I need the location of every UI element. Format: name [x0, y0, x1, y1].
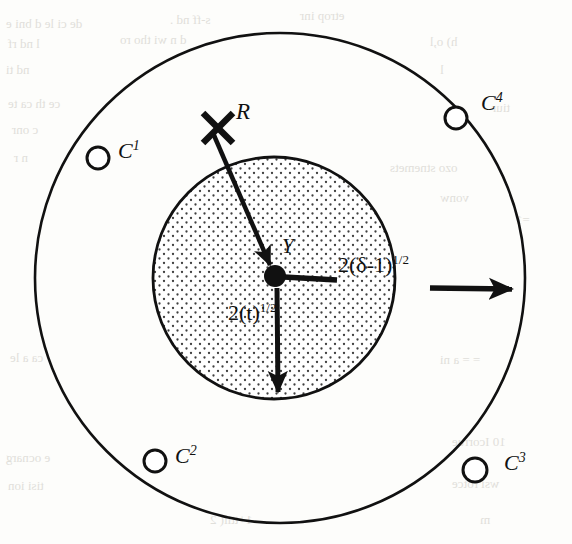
t-arrow-label: 2(t)1/2: [228, 302, 276, 324]
delta-arrow-label: 2(δ-1)1/2: [338, 254, 409, 276]
vertical-arrow-t: [277, 288, 278, 392]
x-mark: [203, 113, 233, 143]
radius-label-r: R: [236, 100, 250, 123]
marker-circle-c1: [87, 147, 109, 169]
marker-label-c3: C3: [504, 452, 526, 474]
diagram-svg: [0, 0, 572, 544]
center-point-y: [264, 265, 286, 287]
marker-label-c2: C2: [175, 445, 197, 467]
figure-canvas: de ci le d bni es-ff nd .etrop inrl nd r…: [0, 0, 572, 544]
center-label-y: Y: [282, 236, 294, 257]
marker-circle-c4: [445, 107, 467, 129]
marker-label-c4: C4: [481, 92, 503, 114]
marker-circle-c2: [144, 450, 166, 472]
marker-label-c1: C1: [118, 140, 140, 162]
marker-circle-c3: [463, 458, 487, 482]
